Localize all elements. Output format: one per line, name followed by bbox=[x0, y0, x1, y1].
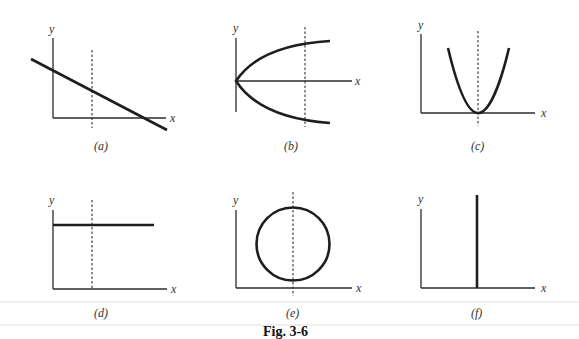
y-axis-label: y bbox=[232, 193, 239, 207]
y-axis-label: y bbox=[232, 21, 239, 35]
panel-label-f: (f) bbox=[471, 306, 482, 320]
panel-b: y x (b) bbox=[232, 21, 361, 153]
x-axis-label: x bbox=[170, 282, 177, 296]
x-axis-label: x bbox=[169, 111, 176, 125]
panel-d: y x bbox=[48, 193, 177, 296]
panel-label-c: (c) bbox=[471, 139, 484, 153]
y-axis-label: y bbox=[417, 18, 424, 32]
panel-f: y x bbox=[417, 192, 547, 295]
figure-caption: Fig. 3-6 bbox=[263, 324, 308, 339]
sideways-parabola bbox=[236, 41, 330, 123]
panel-e: y x bbox=[232, 192, 362, 296]
x-axis-label: x bbox=[540, 106, 547, 120]
panel-a: y x (a) bbox=[31, 22, 176, 153]
panel-label-a: (a) bbox=[94, 139, 108, 153]
y-axis-label: y bbox=[48, 193, 55, 207]
y-axis-label: y bbox=[417, 192, 424, 206]
x-axis-label: x bbox=[540, 281, 547, 295]
panel-label-b: (b) bbox=[284, 139, 298, 153]
sloped-line bbox=[31, 59, 167, 130]
x-axis-label: x bbox=[354, 74, 361, 88]
x-axis-label: x bbox=[355, 281, 362, 295]
y-axis-label: y bbox=[48, 22, 55, 36]
panel-label-e: (e) bbox=[286, 306, 299, 320]
panel-c: y x (c) bbox=[417, 18, 547, 153]
panel-label-d: (d) bbox=[94, 306, 108, 320]
figure-canvas: y x (a) y x (b) y x (c) y x y x bbox=[0, 0, 579, 339]
